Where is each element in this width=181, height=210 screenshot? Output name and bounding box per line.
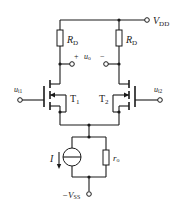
drain-resistor-right: RD	[116, 20, 137, 64]
vdd-rail: VDD	[60, 15, 169, 28]
output-terminal-plus	[70, 62, 75, 67]
vdd-terminal	[145, 18, 150, 23]
vss-rail: −VSS	[62, 175, 106, 200]
ui1-label: ui1	[14, 85, 23, 94]
output-minus-sign: −	[100, 52, 105, 61]
differential-amplifier-circuit: VDD RD RD + uo −	[0, 0, 181, 210]
vdd-label: VDD	[153, 15, 169, 28]
rd-left-label: RD	[66, 34, 78, 47]
tail-current-source: I	[49, 137, 106, 177]
vss-terminal	[87, 192, 92, 197]
ro-label: ro	[113, 153, 120, 163]
ui2-label: ui2	[154, 85, 163, 94]
t2-label: T2	[99, 93, 109, 106]
output-port: + uo −	[58, 52, 120, 66]
t1-label: T1	[70, 93, 80, 106]
output-resistance-ro: ro	[103, 137, 120, 177]
input-terminal-ui1	[18, 98, 23, 103]
vss-label: −VSS	[62, 190, 80, 200]
output-plus-sign: +	[74, 52, 79, 61]
current-label: I	[49, 153, 54, 164]
input-terminal-ui2	[158, 98, 163, 103]
transistor-t1: ui1 T1	[14, 64, 80, 125]
rd-right-label: RD	[125, 34, 137, 47]
transistor-t2: ui2 T2	[99, 64, 163, 125]
output-terminal-minus	[104, 62, 109, 67]
tail-bus	[60, 123, 119, 138]
output-label: uo	[84, 52, 91, 61]
